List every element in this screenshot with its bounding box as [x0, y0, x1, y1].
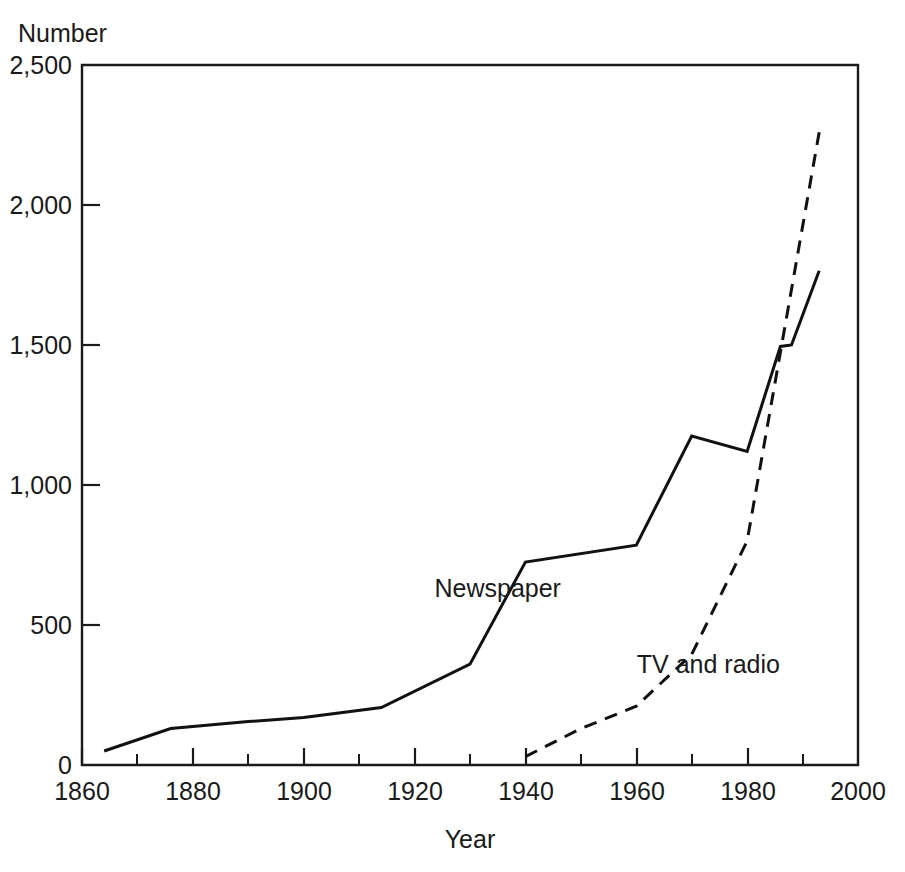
x-tick-label-1920: 1920: [387, 777, 443, 805]
y-tick-label-2500: 2,500: [9, 51, 72, 79]
x-axis-tick-labels: 1860 1880 1900 1920 1940 1960 1980 2000: [54, 777, 886, 805]
x-axis-title: Year: [445, 825, 496, 853]
y-tick-label-1000: 1,000: [9, 471, 72, 499]
x-tick-label-1940: 1940: [498, 777, 554, 805]
y-tick-label-500: 500: [30, 611, 72, 639]
y-tick-label-2000: 2,000: [9, 191, 72, 219]
series-line-newspaper: [104, 271, 819, 751]
series-label-newspaper: Newspaper: [434, 574, 560, 602]
x-tick-label-1980: 1980: [720, 777, 776, 805]
x-tick-label-1900: 1900: [276, 777, 332, 805]
chart-container: Number 2,500 2,000 1,500 1,000 500 0: [0, 0, 905, 872]
x-axis-ticks: [82, 748, 858, 765]
y-axis-ticks: [82, 205, 100, 625]
y-axis-title: Number: [18, 19, 107, 47]
series-label-tv-and-radio: TV and radio: [637, 650, 780, 678]
x-tick-label-1860: 1860: [54, 777, 110, 805]
x-tick-label-1880: 1880: [165, 777, 221, 805]
y-tick-label-1500: 1,500: [9, 331, 72, 359]
x-tick-label-1960: 1960: [609, 777, 665, 805]
x-tick-label-2000: 2000: [830, 777, 886, 805]
y-tick-label-0: 0: [58, 751, 72, 779]
y-axis-tick-labels: 2,500 2,000 1,500 1,000 500 0: [9, 51, 72, 779]
line-chart: Number 2,500 2,000 1,500 1,000 500 0: [0, 0, 905, 872]
